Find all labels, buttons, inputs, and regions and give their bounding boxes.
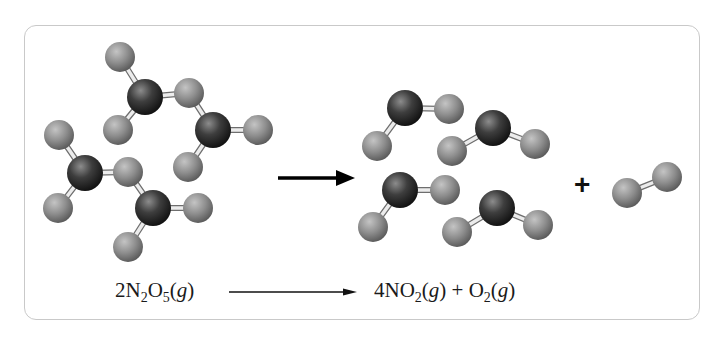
no2-molecule-4 [442,190,553,247]
paren: ( [491,278,498,302]
state-label: g [498,278,509,302]
n2o5-molecule-2 [43,120,213,262]
subscript: 2 [415,290,422,305]
element-o: O [469,278,484,302]
element-o: O [148,278,163,302]
equation-plus: + [446,278,468,302]
paren: ( [422,278,429,302]
element-n: N [126,278,141,302]
product-formula: 4NO2(g) + O2(g) [374,278,515,302]
reaction-arrow-icon [278,170,355,186]
paren: ( [170,278,177,302]
subscript: 2 [141,290,148,305]
equation-arrow-icon [229,289,357,296]
species-no: NO [385,278,415,302]
o2-molecule [612,162,682,208]
state-label: g [177,278,188,302]
paren: ) [508,278,515,302]
paren: ) [187,278,194,302]
plus-sign: + [574,170,590,200]
coefficient: 2 [115,278,126,302]
molecular-scene [0,0,722,338]
subscript: 2 [484,290,491,305]
coefficient: 4 [374,278,385,302]
state-label: g [429,278,440,302]
reactant-formula: 2N2O5(g) [115,278,194,302]
subscript: 5 [163,290,170,305]
